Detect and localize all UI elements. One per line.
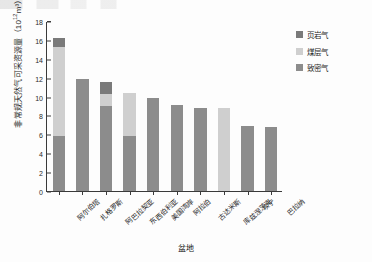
- bar: [53, 38, 65, 191]
- x-axis-tick-mark: [153, 191, 154, 195]
- x-axis-category-label: 古达米斯: [216, 196, 243, 222]
- y-axis-tick-label: 0: [39, 189, 47, 196]
- y-axis-tick-mark: [47, 40, 51, 41]
- y-axis-tick-label: 2: [39, 170, 47, 177]
- x-axis-tick-mark: [106, 191, 107, 195]
- bar-segment: [53, 47, 65, 137]
- bar: [218, 108, 230, 191]
- y-axis-tick-mark: [47, 135, 51, 136]
- x-axis-title: 盆地: [0, 242, 372, 253]
- y-axis-tick-label: 16: [35, 37, 47, 44]
- bar-segment: [53, 136, 65, 191]
- bar-segment: [123, 93, 135, 136]
- bar: [100, 82, 112, 191]
- legend-label: 煤层气: [307, 46, 328, 57]
- bar: [123, 93, 135, 191]
- legend-swatch-icon: [296, 31, 303, 38]
- legend-item: 致密气: [296, 62, 328, 73]
- bar: [171, 105, 183, 191]
- y-axis-tick-label: 18: [35, 19, 47, 26]
- x-axis-category-label: 阿尔伯塔: [74, 196, 101, 222]
- bar-segment: [53, 38, 65, 47]
- y-axis-tick-label: 10: [35, 94, 47, 101]
- y-axis-tick-mark: [47, 59, 51, 60]
- y-axis-tick-mark: [47, 173, 51, 174]
- x-axis-tick-mark: [271, 191, 272, 195]
- x-axis-tick-mark: [248, 191, 249, 195]
- y-axis-title-exponent: 12: [12, 13, 18, 20]
- y-axis-tick-label: 8: [39, 113, 47, 120]
- chart-legend: 页岩气煤层气致密气: [296, 29, 328, 73]
- scan-artifact-strip: [0, 0, 372, 9]
- bar-segment: [76, 79, 88, 191]
- x-axis-tick-mark: [200, 191, 201, 195]
- bar-segment: [100, 82, 112, 93]
- legend-swatch-icon: [296, 48, 303, 55]
- y-axis-tick-mark: [47, 116, 51, 117]
- y-axis-tick-label: 12: [35, 75, 47, 82]
- bar-segment: [265, 127, 277, 191]
- bar-segment: [194, 108, 206, 191]
- y-axis-tick-mark: [47, 154, 51, 155]
- y-axis-title-tail: m³）: [14, 0, 23, 13]
- x-axis-tick-mark: [224, 191, 225, 195]
- bar: [241, 126, 253, 191]
- bar-segment: [100, 106, 112, 191]
- bar-segment: [147, 98, 159, 192]
- y-axis-tick-mark: [47, 78, 51, 79]
- bar-segment: [218, 108, 230, 191]
- y-axis-tick-mark: [47, 22, 51, 23]
- legend-swatch-icon: [296, 64, 303, 71]
- x-axis-tick-mark: [59, 191, 60, 195]
- y-axis-tick-label: 4: [39, 151, 47, 158]
- x-axis-category-label: 阿拉伯: [190, 196, 212, 217]
- y-axis-title-main: 非常规天然气可采资源量（10: [14, 20, 23, 128]
- y-axis-tick-label: 14: [35, 56, 47, 63]
- x-axis-category-label: 扎格罗斯: [98, 196, 125, 222]
- x-axis-tick-mark: [82, 191, 83, 195]
- legend-label: 致密气: [307, 62, 328, 73]
- x-axis-category-label: 巴拉纳: [285, 196, 307, 217]
- bar-segment: [100, 94, 112, 106]
- legend-item: 煤层气: [296, 46, 328, 57]
- chart-figure: 非常规天然气可采资源量（1012m³） 024681012141618 盆地 页…: [0, 0, 372, 262]
- bar-segment: [171, 105, 183, 191]
- bar: [265, 127, 277, 191]
- bar: [147, 98, 159, 192]
- plot-area: 024681012141618: [46, 22, 282, 192]
- x-axis-tick-mark: [130, 191, 131, 195]
- bar-segment: [123, 136, 135, 191]
- x-axis-tick-mark: [177, 191, 178, 195]
- y-axis-title: 非常规天然气可采资源量（1012m³）: [12, 0, 23, 147]
- bar-segment: [241, 126, 253, 191]
- y-axis-tick-mark: [47, 97, 51, 98]
- bar: [194, 108, 206, 191]
- legend-label: 页岩气: [307, 29, 328, 40]
- bar: [76, 79, 88, 191]
- y-axis-tick-label: 6: [39, 132, 47, 139]
- y-axis-tick-mark: [47, 192, 51, 193]
- legend-item: 页岩气: [296, 29, 328, 40]
